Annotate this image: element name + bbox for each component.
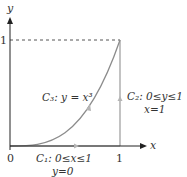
c2-sublabel: x=1 (144, 104, 165, 115)
c2-label: C₂: 0≤y≤1 (127, 91, 183, 102)
c3-label: C₃: y = x³ (42, 92, 93, 103)
y-axis-label: y (7, 3, 13, 14)
c1-sublabel: y=0 (52, 166, 73, 177)
x-tick-label: 1 (116, 153, 123, 164)
y-tick-label: 1 (0, 35, 7, 46)
x-axis-arrow-icon (140, 143, 147, 149)
c1-direction-arrow-icon (74, 144, 79, 149)
c1-label: C₁: 0≤x≤1 (36, 153, 92, 164)
y-axis-arrow-icon (7, 17, 13, 24)
diagram-canvas (0, 0, 187, 177)
c2-direction-arrow-icon (118, 96, 123, 101)
x-axis-label: x (150, 140, 156, 151)
origin-label: 0 (7, 153, 14, 164)
